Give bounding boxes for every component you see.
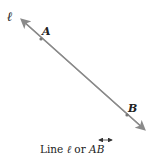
line-label: ℓ <box>7 9 13 24</box>
point-b-label: B <box>127 102 137 115</box>
line-diagram: ℓ A B Line ℓ or AB <box>0 0 163 160</box>
caption: Line ℓ or AB <box>40 143 105 155</box>
point-a-label: A <box>41 25 51 38</box>
